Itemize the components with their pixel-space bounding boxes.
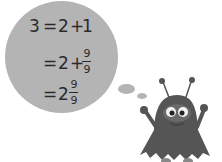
monster-character-icon — [0, 0, 222, 162]
